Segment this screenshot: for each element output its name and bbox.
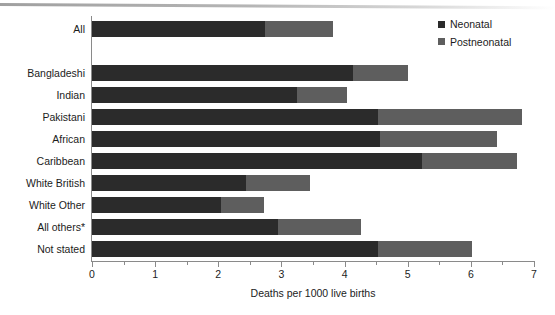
category-label: White British [26,178,85,189]
bar-segment-postneonatal [380,131,497,147]
bar-segment-postneonatal [378,241,472,257]
bar-segment-neonatal [92,153,422,169]
category-label: Pakistani [42,112,85,123]
category-label: Indian [56,90,85,101]
scan-artifact-line [0,3,555,9]
bar-row: White British [92,175,310,191]
category-label: Not stated [37,244,85,255]
x-tick-label: 1 [152,269,158,280]
x-tick-major [471,261,472,267]
legend-swatch-icon [438,38,445,45]
x-tick-minor [439,261,440,265]
category-label: Caribbean [37,156,85,167]
legend-item-postneonatal[interactable]: Postneonatal [438,37,511,48]
category-label: White Other [29,200,85,211]
legend-label: Neonatal [450,19,492,30]
x-tick-major [281,261,282,267]
bar-segment-neonatal [92,65,353,81]
x-tick-minor [124,261,125,265]
legend-item-neonatal[interactable]: Neonatal [438,19,511,30]
legend-swatch-icon [438,21,445,28]
x-tick-label: 4 [342,269,348,280]
bar-row: Caribbean [92,153,517,169]
bar-segment-postneonatal [246,175,310,191]
bar-segment-postneonatal [265,21,333,37]
x-tick-major [155,261,156,267]
bar-segment-postneonatal [353,65,408,81]
x-tick-major [345,261,346,267]
bar-segment-neonatal [92,87,297,103]
x-tick-major [218,261,219,267]
bar-segment-postneonatal [278,219,361,235]
bar-segment-neonatal [92,241,378,257]
x-tick-major [408,261,409,267]
bar-segment-neonatal [92,175,246,191]
x-tick-label: 2 [215,269,221,280]
bar-segment-postneonatal [221,197,265,213]
chart-legend: Neonatal Postneonatal [438,19,511,54]
x-tick-minor [502,261,503,265]
category-label: African [52,134,85,145]
x-tick-label: 7 [531,269,537,280]
category-label: All others* [37,222,85,233]
x-tick-label: 3 [279,269,285,280]
bar-segment-postneonatal [378,109,522,125]
bar-row: Pakistani [92,109,522,125]
x-axis-title: Deaths per 1000 live births [92,287,534,299]
bar-segment-neonatal [92,197,221,213]
bar-segment-postneonatal [297,87,347,103]
category-label: All [73,24,85,35]
bar-row: White Other [92,197,264,213]
category-label: Bangladeshi [27,68,85,79]
bar-segment-neonatal [92,131,380,147]
x-tick-minor [187,261,188,265]
bar-row: Indian [92,87,347,103]
x-tick-minor [250,261,251,265]
bar-segment-neonatal [92,109,378,125]
x-tick-minor [376,261,377,265]
x-tick-major [92,261,93,267]
bar-segment-neonatal [92,219,278,235]
bar-segment-neonatal [92,21,265,37]
bar-row: Not stated [92,241,472,257]
chart-figure: AllBangladeshiIndianPakistaniAfricanCari… [0,0,555,315]
bar-row: African [92,131,497,147]
bar-row: Bangladeshi [92,65,408,81]
x-tick-label: 5 [405,269,411,280]
x-tick-minor [313,261,314,265]
legend-label: Postneonatal [450,37,511,48]
bar-row: All others* [92,219,361,235]
x-tick-label: 6 [468,269,474,280]
x-tick-label: 0 [89,269,95,280]
bar-row: All [92,21,333,37]
bar-segment-postneonatal [422,153,517,169]
x-tick-major [534,261,535,267]
